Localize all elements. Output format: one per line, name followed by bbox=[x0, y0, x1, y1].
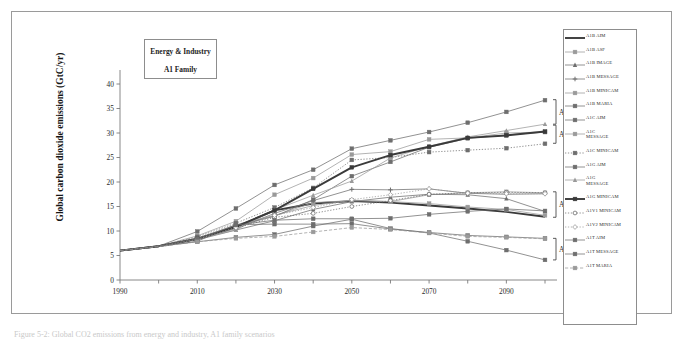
legend-item-label: A1B AIM bbox=[586, 30, 606, 38]
legend-item-label: A1V2 MINICAM bbox=[586, 219, 621, 227]
legend-item-label: A1T MARIA bbox=[586, 260, 612, 268]
legend-swatch-icon bbox=[564, 44, 586, 56]
x-tick-label: 2030 bbox=[267, 287, 282, 296]
legend-swatch-icon bbox=[564, 30, 586, 42]
legend-swatch-icon bbox=[564, 232, 586, 244]
legend-item[interactable]: A1B AIM bbox=[564, 30, 636, 44]
x-tick-label: 2090 bbox=[499, 287, 514, 296]
legend-item-label: A1B ASF bbox=[586, 44, 605, 52]
series-a1t-aim bbox=[120, 207, 547, 251]
x-tick-label: 2010 bbox=[190, 287, 205, 296]
legend-item[interactable]: A1T AIM bbox=[564, 232, 636, 246]
y-tick-label: 35 bbox=[107, 104, 115, 113]
legend-item-label: A1C MESSAGE bbox=[586, 126, 609, 140]
legend-item-label: A1T AIM bbox=[586, 232, 605, 240]
chart-legend: A1B AIMA1B ASFA1B IMAGEA1B MESSAGEA1B MI… bbox=[563, 29, 637, 325]
legend-swatch-icon bbox=[564, 172, 586, 184]
legend-item[interactable]: A1T MARIA bbox=[564, 260, 636, 274]
series-a1c-aim bbox=[120, 98, 547, 250]
axes-layer: 0510152025303540199020102030205020702090 bbox=[107, 70, 557, 296]
series-a1g-minicam bbox=[120, 130, 547, 251]
legend-item-label: A1B IMAGE bbox=[586, 57, 612, 65]
legend-swatch-icon bbox=[564, 145, 586, 157]
legend-item[interactable]: A1V1 MINICAM bbox=[564, 205, 636, 219]
y-tick-label: 30 bbox=[107, 129, 115, 138]
x-tick-label: 2070 bbox=[422, 287, 437, 296]
legend-item[interactable]: A1B MINICAM bbox=[564, 85, 636, 99]
legend-item-label: A1B MARIA bbox=[586, 98, 613, 106]
legend-swatch-icon bbox=[564, 159, 586, 171]
legend-item[interactable]: A1C MINICAM bbox=[564, 145, 636, 159]
legend-swatch-icon bbox=[564, 112, 586, 124]
legend-item[interactable]: A1C MESSAGE bbox=[564, 126, 636, 145]
y-tick-label: 40 bbox=[107, 80, 115, 89]
legend-swatch-icon bbox=[564, 126, 586, 138]
series-a1g-aim bbox=[120, 130, 547, 250]
figure-root: 0510152025303540199020102030205020702090… bbox=[0, 0, 695, 341]
legend-item[interactable]: A1B MESSAGE bbox=[564, 71, 636, 85]
legend-item[interactable]: A1G AIM bbox=[564, 159, 636, 173]
legend-item[interactable]: A1G MESSAGE bbox=[564, 172, 636, 191]
chart-title-line2: A1 Family bbox=[145, 65, 216, 74]
legend-item-label: A1G AIM bbox=[586, 159, 606, 167]
chart-title-box: Energy & Industry A1 Family bbox=[144, 39, 217, 79]
legend-item[interactable]: A1G MINICAM bbox=[564, 191, 636, 205]
y-tick-label: 5 bbox=[110, 251, 114, 260]
legend-swatch-icon bbox=[564, 219, 586, 231]
y-tick-label: 15 bbox=[107, 202, 115, 211]
figure-frame: 0510152025303540199020102030205020702090… bbox=[11, 11, 672, 314]
series-a1c-message bbox=[120, 130, 547, 250]
legend-swatch-icon bbox=[564, 246, 586, 258]
legend-item-label: A1G MINICAM bbox=[586, 191, 619, 199]
x-tick-label: 2050 bbox=[344, 287, 359, 296]
y-tick-label: 10 bbox=[107, 227, 115, 236]
chart-title-line1: Energy & Industry bbox=[145, 47, 216, 56]
legend-item-label: A1B MESSAGE bbox=[586, 71, 619, 79]
legend-swatch-icon bbox=[564, 85, 586, 97]
legend-item[interactable]: A1C AIM bbox=[564, 112, 636, 126]
legend-item[interactable]: A1T MESSAGE bbox=[564, 246, 636, 260]
series-a1t-maria bbox=[120, 226, 547, 251]
series-layer bbox=[120, 98, 547, 262]
legend-item-label: A1C MINICAM bbox=[586, 145, 618, 153]
legend-swatch-icon bbox=[564, 260, 586, 272]
legend-swatch-icon bbox=[564, 191, 586, 203]
legend-item[interactable]: A1B MARIA bbox=[564, 98, 636, 112]
legend-item[interactable]: A1B ASF bbox=[564, 44, 636, 58]
legend-swatch-icon bbox=[564, 205, 586, 217]
legend-item[interactable]: A1B IMAGE bbox=[564, 57, 636, 71]
legend-swatch-icon bbox=[564, 98, 586, 110]
series-a1b-minicam bbox=[120, 198, 547, 250]
legend-item-label: A1C AIM bbox=[586, 112, 606, 120]
legend-item-label: A1B MINICAM bbox=[586, 85, 618, 93]
y-tick-label: 25 bbox=[107, 153, 115, 162]
legend-swatch-icon bbox=[564, 71, 586, 83]
x-tick-label: 1990 bbox=[113, 287, 128, 296]
legend-swatch-icon bbox=[564, 57, 586, 69]
figure-caption: Figure 5-2: Global CO2 emissions from en… bbox=[14, 330, 674, 340]
legend-item-label: A1V1 MINICAM bbox=[586, 205, 621, 213]
series-a1g-message bbox=[120, 122, 547, 251]
y-axis-title: Global carbon dioxide emissions (GtC/yr) bbox=[55, 37, 65, 237]
y-tick-label: 20 bbox=[107, 178, 115, 187]
legend-item-label: A1G MESSAGE bbox=[586, 172, 609, 186]
legend-item-label: A1T MESSAGE bbox=[586, 246, 619, 254]
y-tick-label: 0 bbox=[110, 276, 114, 285]
legend-item[interactable]: A1V2 MINICAM bbox=[564, 219, 636, 233]
